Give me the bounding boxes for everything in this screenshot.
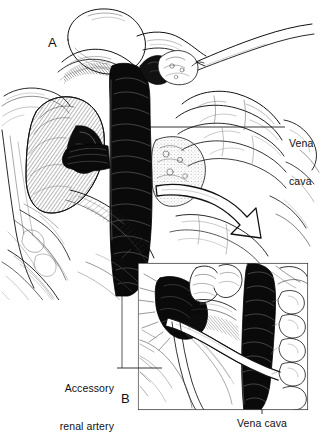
label-vena-cava-bottom: Vena cava [212,417,312,430]
label-vena-cava-top-line2: cava [289,175,313,188]
label-accessory-renal-artery: Accessory renal artery [20,357,114,434]
panel-letter-b: B [121,392,130,405]
label-vena-cava-top: Vena cava [289,112,313,212]
panel-b-inset [138,263,308,412]
lymph-node-cluster [158,51,198,85]
surgical-figure: A B Vena cava Accessory renal artery Ven… [0,0,323,434]
label-accessory-renal-artery-line2: renal artery [20,420,114,433]
panel-letter-a: A [48,36,57,49]
label-vena-cava-top-line1: Vena [289,137,313,150]
label-accessory-renal-artery-line1: Accessory [20,382,114,395]
